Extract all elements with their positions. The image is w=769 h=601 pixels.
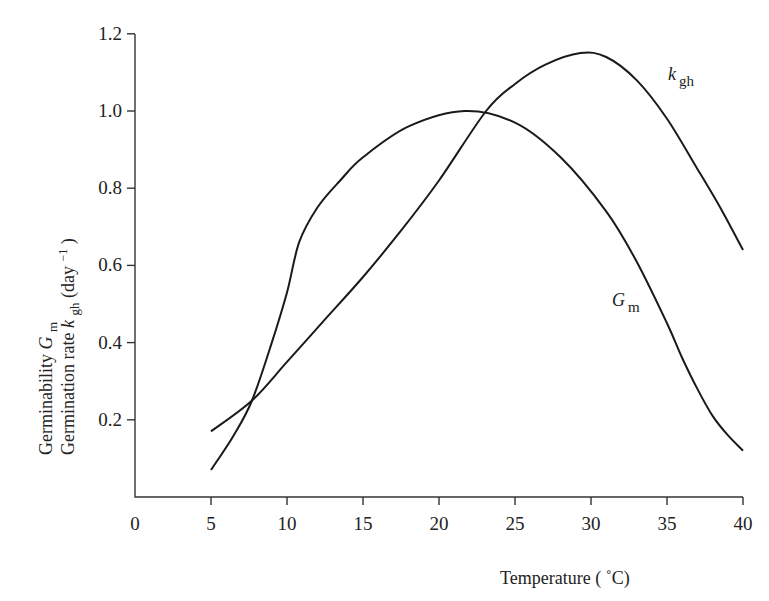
line-chart: 0.20.40.60.81.01.2 0510152025303540 kghG… [0, 0, 769, 601]
x-tick-label: 40 [734, 513, 753, 534]
x-tick-label: 20 [430, 513, 449, 534]
series-label-k-gh: kgh [668, 64, 695, 89]
y-axis-ticks: 0.20.40.60.81.01.2 [98, 23, 135, 430]
y-tick-label: 1.2 [98, 23, 122, 44]
x-tick-label: 35 [658, 513, 677, 534]
x-axis-title: Temperature ( ˚C) [500, 568, 630, 589]
x-tick-label: 0 [130, 513, 140, 534]
axis-lines [135, 34, 743, 497]
x-tick-label: 25 [506, 513, 525, 534]
y-axis-title-line-1: Germinability G m [36, 322, 60, 455]
x-axis-ticks: 0510152025303540 [130, 497, 752, 534]
y-tick-label: 0.2 [98, 409, 122, 430]
x-tick-label: 5 [206, 513, 216, 534]
series-group: kghGm [211, 53, 743, 470]
y-tick-label: 0.6 [98, 254, 122, 275]
x-tick-label: 30 [582, 513, 601, 534]
y-tick-label: 0.8 [98, 177, 122, 198]
curve-g-m [211, 111, 743, 470]
x-tick-label: 10 [278, 513, 297, 534]
y-axis-title: Germinability G m Germination rate k gh … [36, 238, 83, 455]
y-tick-label: 1.0 [98, 100, 122, 121]
curve-k-gh [211, 53, 743, 432]
series-label-g-m: Gm [612, 290, 640, 315]
y-tick-label: 0.4 [98, 332, 122, 353]
x-tick-label: 15 [354, 513, 373, 534]
